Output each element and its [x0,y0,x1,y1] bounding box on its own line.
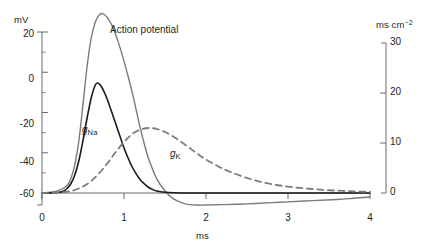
curves-layer [42,14,370,206]
gk-label: gK [170,148,181,161]
right-tick-label-30: 30 [390,36,414,47]
right-axis-unit-exponent: −2 [404,19,412,26]
left-tick-label-minus-40: -40 [4,156,34,167]
action-potential-label: Action potential [110,24,178,35]
series-curve-gk [42,128,370,193]
left-axis-unit-label: mV [14,14,28,25]
x-axis-unit-label: ms [196,230,209,241]
x-tick-label-1: 1 [114,212,134,223]
gna-label-subscript: Na [88,128,98,137]
gna-label: gNa [82,124,98,137]
right-axis-unit-base: ms cm [376,19,404,30]
gk-label-subscript: K [176,152,181,161]
left-tick-label-minus-20: -20 [4,118,34,129]
x-tick-label-3: 3 [278,212,298,223]
right-tick-label-10: 10 [390,136,414,147]
right-axis-unit-label: ms cm−2 [376,19,413,30]
axes-layer [37,32,386,205]
series-curve-action-potential [42,14,370,206]
x-tick-label-4: 4 [360,212,380,223]
x-tick-label-2: 2 [196,212,216,223]
x-tick-label-0: 0 [32,212,52,223]
left-tick-label-minus-60: -60 [4,188,34,199]
left-tick-label-0: 0 [8,73,34,84]
right-tick-label-0: 0 [390,186,414,197]
left-tick-label-20: 20 [8,28,34,39]
series-curve-gna [42,83,370,193]
chart-figure: mV ms cm−2 ms 20 0 -20 -40 -60 30 20 10 … [0,0,426,250]
right-tick-label-20: 20 [390,86,414,97]
